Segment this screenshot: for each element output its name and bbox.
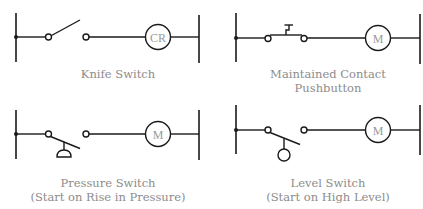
- knife-switch-caption: Knife Switch: [38, 67, 198, 81]
- coil-label: CR: [150, 31, 166, 45]
- level-switch-caption: Level Switch (Start on High Level): [238, 176, 418, 204]
- contact-terminal-icon: [265, 127, 271, 133]
- switch-blade-icon: [270, 133, 300, 145]
- contact-terminal-icon: [301, 127, 307, 133]
- contact-terminal-icon: [83, 131, 89, 137]
- contact-terminal-icon: [265, 36, 271, 42]
- caption-line-1: Pressure Switch: [18, 176, 198, 190]
- float-ball-icon: [278, 149, 290, 161]
- pressure-switch-caption: Pressure Switch (Start on Rise in Pressu…: [18, 176, 198, 204]
- pushbutton-rung: M: [234, 13, 420, 64]
- caption-line-1: Maintained Contact: [248, 67, 408, 81]
- contact-terminal-icon: [301, 36, 307, 42]
- coil-label: M: [373, 124, 384, 138]
- switch-blade-icon: [51, 137, 81, 149]
- pushbutton-caption: Maintained Contact Pushbutton: [248, 67, 408, 95]
- knife-blade-icon: [52, 20, 81, 36]
- pressure-diaphragm-icon: [57, 150, 71, 157]
- level-switch-rung: M: [234, 105, 420, 161]
- contact-terminal-icon: [83, 34, 89, 40]
- caption-line-1: Level Switch: [238, 176, 418, 190]
- pushbutton-stem-icon: [286, 25, 289, 35]
- coil-label: M: [373, 32, 384, 46]
- caption-line-2: (Start on High Level): [238, 190, 418, 204]
- contact-terminal-icon: [46, 131, 52, 137]
- caption-line-2: Pushbutton: [248, 81, 408, 95]
- coil-label: M: [153, 128, 164, 142]
- caption-line-2: (Start on Rise in Pressure): [18, 190, 198, 204]
- pressure-switch-rung: M: [14, 110, 199, 160]
- caption-line-1: Knife Switch: [38, 67, 198, 81]
- knife-switch-rung: CR: [14, 13, 199, 63]
- contact-terminal-icon: [46, 34, 52, 40]
